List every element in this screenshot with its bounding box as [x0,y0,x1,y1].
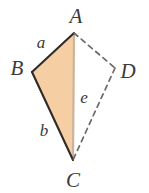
side-label-a: a [37,34,46,51]
segment-dc-dashed [73,68,115,160]
vertex-label-b: B [11,58,24,79]
side-label-b: b [40,122,49,139]
side-label-e: e [80,89,88,106]
vertex-label-c: C [66,170,80,191]
geometry-figure: A B C D a b e [0,0,149,193]
vertex-label-d: D [120,61,135,82]
segment-ac-median [73,33,74,160]
vertex-label-a: A [70,6,83,27]
segment-ad-dashed [74,33,115,68]
figure-canvas [0,0,149,193]
